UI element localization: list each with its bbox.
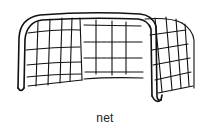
net-mesh-middle xyxy=(80,18,143,80)
caption-label: net xyxy=(0,111,210,125)
net-mesh-left xyxy=(26,18,82,86)
net-illustration xyxy=(0,0,210,110)
